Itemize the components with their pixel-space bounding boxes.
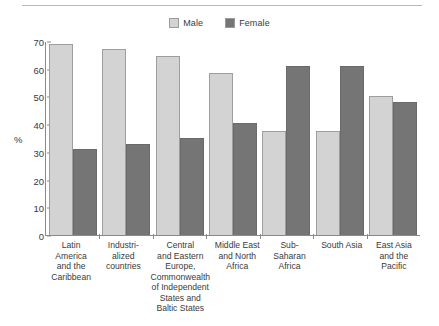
bar-female[interactable] <box>180 138 204 235</box>
chart-legend: Male Female <box>0 18 439 28</box>
x-axis-separator <box>260 234 261 239</box>
bar-group <box>260 42 313 235</box>
y-axis-tick-30: 30 <box>33 147 46 158</box>
bar-group <box>367 42 420 235</box>
plot-area: 010203040506070 <box>45 42 420 236</box>
legend-item-female: Female <box>225 18 270 28</box>
bar-group <box>153 42 206 235</box>
bar-female[interactable] <box>393 102 417 235</box>
x-axis-label: Central and Eastern Europe, Commonwealth… <box>149 240 211 314</box>
square-swatch-icon <box>225 18 235 28</box>
x-axis-labels: Latin America and the CaribbeanIndustri-… <box>45 240 420 314</box>
x-axis-separator <box>153 234 154 239</box>
x-axis-label: South Asia <box>316 240 368 314</box>
bar-female[interactable] <box>126 144 150 235</box>
bar-female[interactable] <box>73 149 97 235</box>
legend-label-female: Female <box>239 18 270 28</box>
x-axis-label: East Asia and the Pacific <box>368 240 420 314</box>
bar-group <box>206 42 259 235</box>
y-axis-tick-mark <box>47 236 51 237</box>
x-axis-label: Latin America and the Caribbean <box>45 240 97 314</box>
top-divider <box>22 5 422 6</box>
bar-male[interactable] <box>369 96 393 235</box>
y-axis-tick-40: 40 <box>33 120 46 131</box>
bar-male[interactable] <box>156 56 180 235</box>
y-axis-tick-label: 10 <box>33 203 47 214</box>
y-axis-title: % <box>14 42 22 236</box>
chart-root: Male Female % 010203040506070 Latin Amer… <box>0 0 439 326</box>
y-axis-tick-label: 60 <box>33 64 47 75</box>
bar-group <box>46 42 99 235</box>
y-axis-tick-label: 70 <box>33 37 47 48</box>
bar-group <box>313 42 366 235</box>
y-axis-tick-70: 70 <box>33 37 46 48</box>
x-axis-separator <box>206 234 207 239</box>
y-axis-tick-label: 50 <box>33 92 47 103</box>
x-axis-separator <box>99 234 100 239</box>
bar-female[interactable] <box>233 123 257 235</box>
legend-item-male: Male <box>169 18 203 28</box>
x-axis-label: Middle East and North Africa <box>211 240 263 314</box>
bar-male[interactable] <box>316 131 340 235</box>
y-axis-tick-20: 20 <box>33 175 46 186</box>
legend-label-male: Male <box>183 18 203 28</box>
bar-male[interactable] <box>209 73 233 235</box>
bar-groups <box>46 42 420 235</box>
bar-male[interactable] <box>102 49 126 235</box>
x-axis-separator <box>313 234 314 239</box>
y-axis-tick-10: 10 <box>33 203 46 214</box>
bar-female[interactable] <box>340 66 364 235</box>
x-axis-label: Industri- alized countries <box>97 240 149 314</box>
y-axis-tick-label: 30 <box>33 147 47 158</box>
y-axis-tick-label: 20 <box>33 175 47 186</box>
bar-male[interactable] <box>49 44 73 235</box>
bar-female[interactable] <box>286 66 310 235</box>
x-axis-separator <box>367 234 368 239</box>
square-swatch-icon <box>169 18 179 28</box>
y-axis-tick-50: 50 <box>33 92 46 103</box>
x-axis-label: Sub-Saharan Africa <box>263 240 315 314</box>
bar-male[interactable] <box>262 131 286 235</box>
y-axis-tick-60: 60 <box>33 64 46 75</box>
y-axis-tick-label: 40 <box>33 120 47 131</box>
bar-group <box>99 42 152 235</box>
